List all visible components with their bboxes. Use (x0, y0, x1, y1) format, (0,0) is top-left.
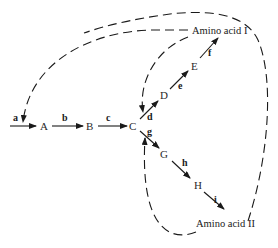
enzyme-g-label: g (147, 126, 152, 137)
enzyme-h-label: h (182, 157, 188, 168)
enzyme-b-label: b (62, 112, 68, 123)
enzyme-f-label: f (208, 47, 212, 58)
node-g: G (160, 148, 168, 160)
feedback-aa1-to-a (23, 30, 188, 122)
node-h: H (194, 179, 202, 191)
enzyme-a-label: a (13, 112, 18, 123)
node-a: A (40, 120, 48, 132)
feedback-loops (23, 12, 268, 234)
main-pathway: a A b B c C (10, 112, 136, 132)
node-c: C (129, 120, 136, 132)
node-b: B (86, 120, 93, 132)
node-d: D (160, 89, 168, 101)
feedback-aa2-outer-loop (84, 12, 268, 221)
enzyme-e-label: e (178, 80, 183, 91)
node-e: E (191, 60, 198, 72)
enzyme-c-label: c (106, 112, 111, 123)
enzyme-i-label: i (214, 194, 217, 205)
branch-amino-acid-2: g G h H i Amino acid II (140, 126, 255, 229)
product-amino-acid-2: Amino acid II (196, 218, 255, 229)
pathway-diagram: a A b B c C d D e E f Amino acid I g G h… (0, 0, 278, 248)
feedback-aa2-to-g (144, 138, 196, 235)
branch-amino-acid-1: d D e E f Amino acid I (140, 25, 248, 122)
product-amino-acid-1: Amino acid I (192, 25, 248, 36)
enzyme-d-label: d (147, 111, 153, 122)
